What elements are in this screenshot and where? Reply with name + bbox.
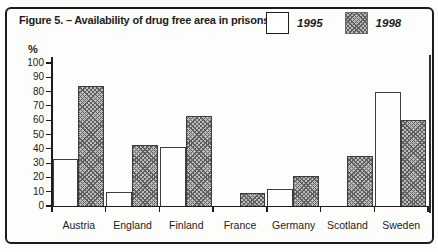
category-label-england: England (106, 219, 160, 231)
bar-1995-finland (160, 147, 186, 206)
y-tick-label-20: 20 (18, 171, 44, 183)
bar-1998-france (240, 193, 266, 206)
bar-1998-germany (293, 176, 319, 206)
y-axis-unit-label: % (28, 43, 38, 55)
category-label-finland: Finland (159, 219, 213, 231)
y-tick-mark-80 (46, 91, 52, 92)
y-tick-mark-60 (46, 120, 52, 121)
y-tick-mark-70 (46, 105, 52, 106)
category-label-france: France (213, 219, 267, 231)
category-divider (159, 206, 161, 212)
y-tick-mark-20 (46, 177, 52, 178)
bar-1995-germany (267, 189, 293, 206)
y-tick-label-10: 10 (18, 186, 44, 198)
y-tick-mark-0 (46, 205, 52, 206)
legend: 1995 1998 (266, 12, 415, 34)
category-label-sweden: Sweden (374, 219, 428, 231)
category-divider (105, 206, 107, 212)
figure-frame (5, 7, 434, 244)
category-label-scotland: Scotland (321, 219, 375, 231)
category-label-germany: Germany (267, 219, 321, 231)
bar-1998-austria (78, 86, 104, 206)
category-label-austria: Austria (52, 219, 106, 231)
legend-label-1995: 1995 (297, 17, 323, 29)
legend-swatch-1998 (345, 12, 368, 34)
scan-artifact-line (429, 55, 431, 213)
bar-1995-austria (53, 159, 79, 206)
bar-1998-finland (186, 116, 212, 206)
y-tick-label-50: 50 (18, 129, 44, 141)
bar-1998-sweden (401, 120, 427, 206)
category-divider (266, 206, 268, 212)
category-divider (320, 206, 322, 212)
y-tick-label-100: 100 (18, 57, 44, 69)
y-tick-mark-40 (46, 148, 52, 149)
y-tick-label-90: 90 (18, 71, 44, 83)
legend-swatch-1995 (266, 12, 289, 34)
y-tick-label-0: 0 (18, 200, 44, 212)
y-tick-mark-30 (46, 163, 52, 164)
bar-1998-england (132, 145, 158, 206)
figure-title: Figure 5. – Availability of drug free ar… (19, 14, 272, 26)
category-divider (374, 206, 376, 212)
y-tick-label-60: 60 (18, 114, 44, 126)
y-tick-mark-100 (46, 62, 52, 63)
bar-1995-sweden (375, 92, 401, 206)
category-divider (212, 206, 214, 212)
y-tick-label-70: 70 (18, 100, 44, 112)
bar-1995-england (106, 192, 132, 206)
y-tick-label-40: 40 (18, 143, 44, 155)
y-tick-mark-50 (46, 134, 52, 135)
y-tick-mark-10 (46, 191, 52, 192)
bar-1998-scotland (347, 156, 373, 206)
y-tick-label-80: 80 (18, 86, 44, 98)
y-tick-mark-90 (46, 77, 52, 78)
y-tick-label-30: 30 (18, 157, 44, 169)
legend-label-1998: 1998 (376, 17, 402, 29)
